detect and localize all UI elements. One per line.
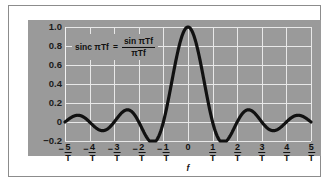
formula-equals-sign: =	[113, 42, 118, 53]
x-tick-label: 5T	[307, 142, 315, 164]
y-tick-label: 0.2	[49, 98, 62, 108]
x-tick-fraction: 5T	[64, 142, 71, 164]
x-tick-fraction: 1T	[209, 142, 216, 164]
x-tick-denominator: T	[163, 153, 170, 164]
x-tick-label: −3T	[108, 142, 121, 164]
sinc-figure: 1.00.80.60.40.20−0.2 −5T−4T−3T−2T−1T01T2…	[0, 0, 331, 184]
x-tick-numerator: 2	[138, 142, 145, 153]
x-tick-numerator: 5	[308, 142, 315, 153]
x-tick-numerator: 3	[114, 142, 121, 153]
y-tick-label: 0.8	[49, 41, 62, 51]
x-tick-numerator: 3	[259, 142, 266, 153]
x-tick-fraction: 3T	[114, 142, 121, 164]
x-tick-fraction: 2T	[234, 142, 241, 164]
x-tick-sign: −	[59, 144, 64, 154]
x-tick-fraction: 2T	[138, 142, 145, 164]
x-tick-numerator: 5	[64, 142, 71, 153]
x-tick-denominator: T	[209, 153, 216, 164]
x-tick-label: 3T	[258, 142, 266, 164]
x-tick-numerator: 4	[89, 142, 96, 153]
x-axis-labels: −5T−4T−3T−2T−1T01T2T3T4T5Tf	[65, 142, 311, 184]
x-tick-label: 1T	[209, 142, 217, 164]
x-tick-fraction: 1T	[163, 142, 170, 164]
x-tick-label: −4T	[83, 142, 96, 164]
x-tick-label: −1T	[157, 142, 170, 164]
x-tick-numerator: 1	[209, 142, 216, 153]
x-tick-sign: −	[132, 144, 137, 154]
y-tick-label: 0.4	[49, 79, 62, 89]
x-tick-numerator: 4	[283, 142, 290, 153]
x-tick-numerator: 1	[163, 142, 170, 153]
x-tick-denominator: T	[234, 153, 241, 164]
x-tick-sign: −	[108, 144, 113, 154]
x-tick-fraction: 5T	[308, 142, 315, 164]
y-tick-label: 0	[57, 117, 62, 127]
x-tick-fraction: 3T	[259, 142, 266, 164]
x-tick-denominator: T	[138, 153, 145, 164]
y-tick-label: 1.0	[49, 22, 62, 32]
x-tick-denominator: T	[308, 153, 315, 164]
formula-annotation: sinc πTf = sin πTf πTf	[72, 34, 158, 60]
figure-frame: 1.00.80.60.40.20−0.2 −5T−4T−3T−2T−1T01T2…	[8, 5, 321, 177]
x-tick-label: 4T	[283, 142, 291, 164]
formula-denominator: πTf	[122, 48, 155, 59]
x-tick-denominator: T	[259, 153, 266, 164]
x-tick-denominator: T	[114, 153, 121, 164]
x-tick-denominator: T	[64, 153, 71, 164]
formula-fraction: sin πTf πTf	[122, 36, 155, 58]
x-tick-label: −2T	[132, 142, 145, 164]
x-tick-fraction: 4T	[89, 142, 96, 164]
y-tick-label: 0.6	[49, 60, 62, 70]
x-tick-sign: −	[157, 144, 162, 154]
x-tick-sign: −	[83, 144, 88, 154]
x-tick-denominator: T	[283, 153, 290, 164]
x-tick-denominator: T	[89, 153, 96, 164]
y-axis-labels: 1.00.80.60.40.20−0.2	[28, 20, 65, 156]
formula-left-side: sinc πTf	[75, 42, 109, 53]
x-tick-fraction: 4T	[283, 142, 290, 164]
x-tick-label: 0	[185, 142, 190, 153]
formula-numerator: sin πTf	[122, 36, 155, 48]
x-tick-label: −5T	[59, 142, 72, 164]
x-axis-title: f	[187, 163, 190, 173]
grid-line-vertical	[311, 27, 312, 141]
x-tick-label: 2T	[233, 142, 241, 164]
x-tick-numerator: 2	[234, 142, 241, 153]
